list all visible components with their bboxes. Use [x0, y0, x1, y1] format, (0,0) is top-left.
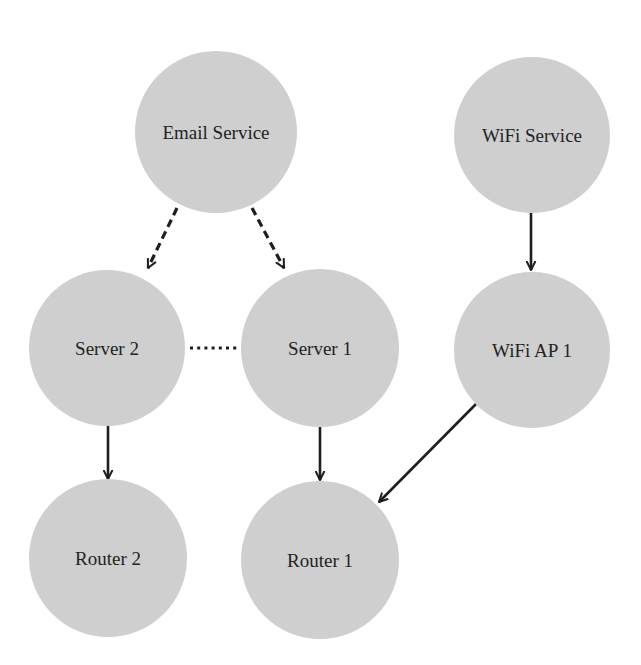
node-label: Email Service [162, 122, 269, 143]
node-server1: Server 1 [241, 269, 399, 427]
edge-wifi-ap1-to-router1 [379, 404, 476, 502]
node-wifi-ap1: WiFi AP 1 [454, 272, 610, 428]
node-label: WiFi AP 1 [492, 340, 572, 361]
node-server2: Server 2 [29, 270, 185, 426]
node-router2: Router 2 [29, 479, 187, 637]
node-email: Email Service [135, 51, 297, 213]
node-label: WiFi Service [482, 125, 582, 146]
network-diagram: Email ServiceWiFi ServiceServer 2Server … [0, 0, 641, 665]
node-label: Server 2 [75, 338, 139, 359]
edge-email-to-server2 [148, 208, 177, 268]
node-wifi-service: WiFi Service [454, 57, 610, 213]
node-label: Router 1 [287, 550, 353, 571]
nodes-layer: Email ServiceWiFi ServiceServer 2Server … [29, 51, 610, 639]
node-label: Server 1 [288, 338, 352, 359]
edge-email-to-server1 [252, 208, 284, 268]
node-label: Router 2 [75, 548, 141, 569]
node-router1: Router 1 [241, 481, 399, 639]
